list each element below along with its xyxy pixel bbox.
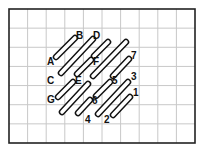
grid-lines [9,9,195,143]
stitch-label: B [76,30,83,41]
stitch-label: F [93,56,99,67]
diagram-canvas: ABCDEFG7536142 [0,0,202,151]
stitch [78,100,90,113]
stitch [77,60,91,74]
stitch-label: E [75,75,82,86]
stitch-label: G [47,94,55,105]
stitch-label: D [93,30,100,41]
stitch [94,42,108,56]
stitch-label: C [47,75,54,86]
stitch-label: 4 [85,114,91,125]
stitch-label: 2 [104,114,110,125]
stitch [96,82,110,96]
stitch-label: 6 [92,95,98,106]
stitch-label: 1 [133,87,139,98]
stitch-label: A [47,56,54,67]
stitch-diagram: ABCDEFG7536142 [0,0,202,151]
stitch-label: 7 [131,50,137,61]
stitch-label: 3 [131,71,137,82]
stitch [58,82,73,97]
stitch-label: 5 [112,75,118,86]
